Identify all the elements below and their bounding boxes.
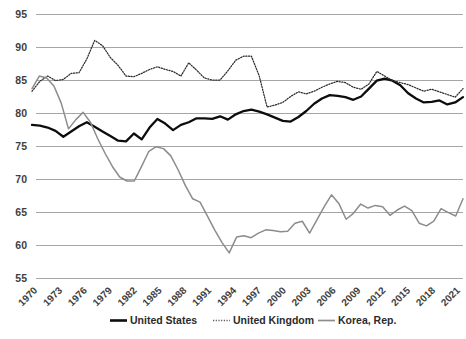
y-tick-label: 65 [15,206,27,218]
x-tick-label: 1982 [115,284,139,308]
series-line-korea-rep [32,76,463,253]
x-tick-label: 2018 [414,284,438,308]
chart-plot-area: 556065707580859095 197019731976197919821… [0,0,466,339]
legend-item-united-kingdom[interactable]: United Kingdom [213,314,314,326]
x-tick-label: 2003 [289,284,313,308]
y-tick-label: 60 [15,239,27,251]
x-tick-label: 1973 [41,284,65,308]
y-tick-label: 90 [15,41,27,53]
chart-legend: United StatesUnited KingdomKorea, Rep. [110,314,396,326]
data-series-layer [32,40,463,253]
gridlines [36,14,463,278]
x-tick-label: 2000 [265,284,289,308]
y-tick-label: 75 [15,140,27,152]
x-tick-label: 1979 [90,284,114,308]
chart-canvas: 556065707580859095 197019731976197919821… [0,0,466,339]
y-tick-label: 70 [15,173,27,185]
x-tick-label: 2021 [439,284,463,308]
legend-label: United States [130,314,197,326]
series-line-united-kingdom [32,40,463,107]
x-tick-label: 2015 [389,284,413,308]
x-tick-label: 2009 [339,284,363,308]
x-tick-label: 2012 [364,284,388,308]
x-tick-label: 1997 [240,284,264,308]
x-axis-tick-labels: 1970197319761979198219851988199119941997… [16,284,463,308]
y-tick-label: 55 [15,272,27,284]
legend-label: Korea, Rep. [338,314,396,326]
x-tick-label: 1994 [215,284,239,308]
line-chart: 556065707580859095 197019731976197919821… [0,0,466,339]
x-tick-label: 2006 [314,284,338,308]
x-tick-label: 1991 [190,284,214,308]
y-axis-tick-labels: 556065707580859095 [15,8,27,284]
y-tick-label: 85 [15,74,27,86]
x-tick-label: 1976 [66,284,90,308]
legend-label: United Kingdom [233,314,314,326]
x-tick-label: 1985 [140,284,164,308]
legend-item-united-states[interactable]: United States [110,314,197,326]
y-tick-label: 95 [15,8,27,20]
y-tick-label: 80 [15,107,27,119]
legend-item-korea-rep[interactable]: Korea, Rep. [318,314,396,326]
x-tick-label: 1988 [165,284,189,308]
series-line-united-states [32,79,463,142]
x-tick-label: 1970 [16,284,40,308]
